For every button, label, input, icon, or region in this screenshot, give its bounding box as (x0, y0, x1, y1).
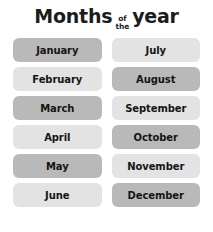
month-chip[interactable]: April (13, 125, 102, 149)
month-chip[interactable]: August (112, 67, 201, 91)
month-chip[interactable]: July (112, 38, 201, 62)
month-chip-label: May (46, 161, 69, 172)
month-chip-label: January (36, 45, 78, 56)
month-chip[interactable]: February (13, 67, 102, 91)
month-chip-label: February (32, 74, 82, 85)
title-word-year: year (132, 7, 179, 26)
month-chip[interactable]: November (112, 154, 201, 178)
month-chip[interactable]: September (112, 96, 201, 120)
month-chip-label: October (134, 132, 178, 143)
month-chip-label: March (40, 103, 74, 114)
month-grid: JanuaryJulyFebruaryAugustMarchSeptemberA… (0, 38, 213, 207)
month-chip[interactable]: January (13, 38, 102, 62)
month-chip[interactable]: December (112, 183, 201, 207)
month-chip-label: November (127, 161, 184, 172)
month-chip-label: July (146, 45, 166, 56)
title-line: Months of the year (34, 7, 179, 33)
months-of-the-year-poster: Months of the year JanuaryJulyFebruaryAu… (0, 0, 213, 232)
month-chip[interactable]: March (13, 96, 102, 120)
month-chip-label: September (125, 103, 186, 114)
title-word-months: Months (34, 7, 112, 26)
month-chip[interactable]: October (112, 125, 201, 149)
title-stacked-of-the: of the (115, 15, 129, 31)
month-chip-label: June (45, 190, 69, 201)
month-chip[interactable]: May (13, 154, 102, 178)
month-chip-label: December (128, 190, 184, 201)
title-small-the: the (115, 23, 129, 31)
page-title: Months of the year (0, 0, 213, 38)
month-chip[interactable]: June (13, 183, 102, 207)
month-chip-label: April (44, 132, 70, 143)
month-chip-label: August (136, 74, 175, 85)
